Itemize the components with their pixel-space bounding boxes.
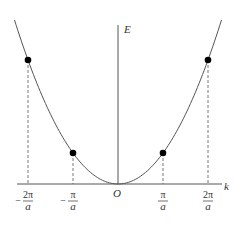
minus-sign: − (15, 195, 21, 206)
tick-label-fraction: πa− (60, 189, 78, 212)
tick-label-fraction: 2πa− (15, 189, 33, 212)
marked-point (25, 57, 32, 64)
marked-point (205, 57, 212, 64)
origin-label: O (113, 187, 121, 199)
dispersion-diagram: E k O 2πa−πa−πa2πa (0, 0, 234, 226)
marked-point (70, 150, 77, 157)
tick-label-fraction: 2πa (203, 189, 213, 212)
minus-sign: − (60, 195, 66, 206)
marked-point (160, 150, 167, 157)
fraction-numerator: π (70, 189, 75, 200)
fraction-denominator: a (160, 200, 166, 212)
fraction-denominator: a (25, 200, 31, 212)
e-axis-label: E (123, 23, 131, 35)
fraction-numerator: 2π (203, 189, 213, 200)
tick-label-fraction: πa (158, 189, 168, 212)
fraction-denominator: a (70, 200, 76, 212)
fraction-denominator: a (205, 200, 211, 212)
k-axis-label: k (224, 180, 230, 192)
fraction-numerator: π (160, 189, 165, 200)
fraction-numerator: 2π (23, 189, 33, 200)
